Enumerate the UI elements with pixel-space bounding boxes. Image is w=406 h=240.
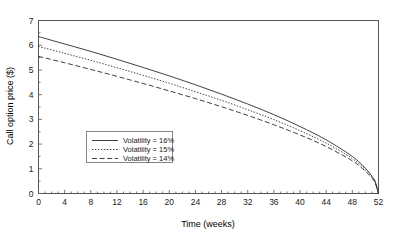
x-axis-tick-labels: 0481216202428323640444852 xyxy=(36,197,383,207)
curve-dotted xyxy=(39,46,379,193)
legend-label: Volatility = 16% xyxy=(123,136,174,145)
tick-marks xyxy=(39,21,379,194)
x-tick-label: 4 xyxy=(62,197,67,207)
chart-legend: Volatility = 16%Volatility = 15%Volatili… xyxy=(87,132,175,164)
x-tick-label: 20 xyxy=(165,197,175,207)
plot-frame xyxy=(39,21,379,194)
x-tick-label: 0 xyxy=(36,197,41,207)
y-tick-label: 4 xyxy=(29,90,34,100)
x-tick-label: 12 xyxy=(112,197,122,207)
x-tick-label: 16 xyxy=(138,197,148,207)
y-tick-label: 0 xyxy=(29,189,34,199)
x-axis-title: Time (weeks) xyxy=(181,219,235,229)
chart-figure: 0481216202428323640444852 01234567 Time … xyxy=(0,0,406,240)
y-axis-tick-labels: 01234567 xyxy=(29,16,34,199)
data-curves xyxy=(39,37,379,194)
x-tick-label: 28 xyxy=(217,197,227,207)
x-tick-label: 36 xyxy=(269,197,279,207)
x-tick-label: 8 xyxy=(88,197,93,207)
legend-label: Volatility = 15% xyxy=(123,145,174,154)
y-tick-label: 7 xyxy=(29,16,34,26)
x-tick-label: 32 xyxy=(243,197,253,207)
y-tick-label: 3 xyxy=(29,114,34,124)
curve-solid xyxy=(39,37,379,194)
y-tick-label: 1 xyxy=(29,164,34,174)
curve-dashed xyxy=(39,56,379,193)
line-chart: 0481216202428323640444852 01234567 Time … xyxy=(0,0,406,240)
x-tick-label: 44 xyxy=(321,197,331,207)
x-tick-label: 24 xyxy=(191,197,201,207)
x-tick-label: 52 xyxy=(374,197,384,207)
y-axis-title: Call option price ($) xyxy=(5,67,15,145)
legend-label: Volatility = 14% xyxy=(123,154,174,163)
y-tick-label: 5 xyxy=(29,65,34,75)
y-tick-label: 6 xyxy=(29,40,34,50)
y-tick-label: 2 xyxy=(29,139,34,149)
x-tick-label: 40 xyxy=(295,197,305,207)
x-tick-label: 48 xyxy=(348,197,358,207)
